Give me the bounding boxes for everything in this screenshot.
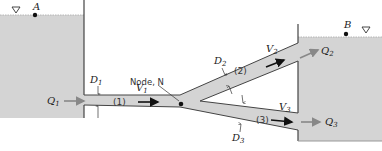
svg-text:D3: D3 [231, 132, 245, 145]
label-a: A [32, 1, 40, 12]
svg-text:D2: D2 [213, 55, 227, 68]
pipe-3-label: (3) [256, 115, 269, 125]
svg-text:D1: D1 [89, 74, 103, 87]
label-b: B [343, 19, 351, 30]
point-b-dot [344, 32, 348, 36]
free-surface-triangle-icon [12, 7, 20, 13]
node-n-dot [179, 102, 184, 107]
pipe-network-diagram: A B Node, N (1) V1 D1 Q1 (2) V2 D2 Q2 [0, 0, 382, 151]
free-surface-triangle-icon [362, 27, 370, 33]
pipe-2-label: (2) [234, 66, 247, 76]
pipe-1-label: (1) [113, 97, 126, 107]
point-a-dot [33, 13, 37, 17]
